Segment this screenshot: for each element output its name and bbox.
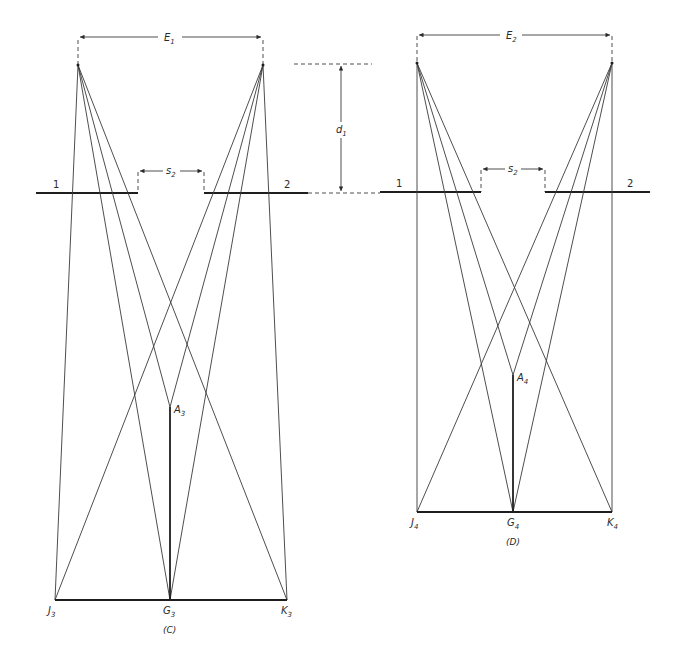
ray-left-eye-to-k3 — [78, 65, 287, 600]
ray-right-eye-to-g4 — [513, 63, 612, 512]
ray-left-eye-to-g4 — [417, 63, 513, 512]
ray-right-eye-to-a3 — [170, 65, 263, 407]
ray-left-eye-to-j3 — [55, 65, 78, 600]
left-eye-point — [77, 64, 80, 67]
plane-2-label: 2 — [284, 179, 290, 190]
ray-left-eye-to-a3 — [78, 65, 170, 407]
ray-left-eye-to-a4 — [417, 63, 513, 375]
caption-d: (D) — [506, 537, 520, 547]
g3-label: G3 — [163, 605, 175, 619]
k3-label: K3 — [281, 605, 292, 619]
ray-right-eye-to-a4 — [513, 63, 612, 375]
e1-label: E1 — [164, 32, 175, 46]
stereo-diagram: E1 s2 1 2 A3 J3 G3 K3 (C) — [0, 0, 685, 662]
plane-2-label-d: 2 — [627, 178, 633, 189]
ray-right-eye-to-k3 — [263, 65, 287, 600]
d1-label: d1 — [336, 124, 347, 138]
plane-1-label-d: 1 — [396, 178, 402, 189]
g4-label: G4 — [507, 517, 519, 531]
plane-1-label: 1 — [53, 179, 59, 190]
panel-c: E1 s2 1 2 A3 J3 G3 K3 (C) — [36, 32, 308, 635]
distance-dimension: d1 — [294, 64, 380, 193]
caption-c: (C) — [163, 625, 176, 635]
j4-label: J4 — [409, 517, 418, 531]
ray-right-eye-to-j3 — [55, 65, 263, 600]
right-eye-point — [262, 64, 265, 67]
ray-left-eye-to-g3 — [78, 65, 170, 600]
ray-right-eye-to-g3 — [170, 65, 263, 600]
s2-label-d: s2 — [508, 163, 518, 177]
j3-label: J3 — [46, 605, 55, 619]
s2-label: s2 — [166, 165, 176, 179]
a3-label: A3 — [173, 404, 185, 418]
e2-label: E2 — [506, 30, 517, 44]
panel-d: E2 s2 1 2 A4 J4 G4 K4 (D) — [380, 30, 650, 547]
k4-label: K4 — [607, 517, 618, 531]
a4-label: A4 — [516, 372, 528, 386]
right-eye-point-d — [611, 62, 614, 65]
left-eye-point-d — [416, 62, 419, 65]
